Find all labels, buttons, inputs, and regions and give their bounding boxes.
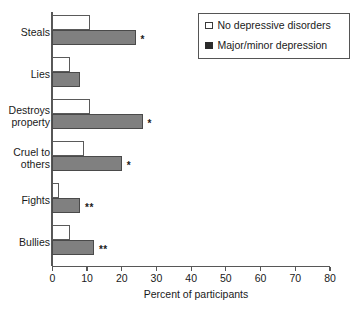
x-tick-label: 30 (141, 272, 171, 284)
legend: No depressive disorders Major/minor depr… (198, 13, 350, 59)
bar-no-depressive-disorders (52, 141, 83, 156)
x-tick-label: 0 (37, 272, 67, 284)
x-tick (191, 267, 192, 271)
category-label: Cruel to others (0, 147, 50, 170)
x-tick-label: 20 (107, 272, 137, 284)
category-label: Fights (0, 195, 50, 207)
legend-swatch-light-icon (205, 22, 213, 30)
bar-major-minor-depression (52, 240, 94, 255)
x-axis-title: Percent of participants (0, 288, 362, 300)
x-tick-label: 70 (280, 272, 310, 284)
legend-label-major-minor-depression: Major/minor depression (218, 39, 328, 52)
x-tick (121, 267, 122, 271)
x-tick (52, 267, 53, 271)
x-tick (86, 267, 87, 271)
category-label: Destroys property (0, 105, 50, 128)
legend-label-no-depressive-disorders: No depressive disorders (218, 19, 331, 32)
category-label: Steals (0, 27, 50, 39)
significance-marker: * (127, 161, 131, 171)
legend-swatch-dark-icon (205, 42, 213, 50)
significance-marker: * (148, 119, 152, 129)
x-tick-label: 40 (176, 272, 206, 284)
x-tick (225, 267, 226, 271)
x-tick-label: 10 (72, 272, 102, 284)
bar-no-depressive-disorders (52, 57, 69, 72)
significance-marker: ** (99, 245, 108, 255)
bar-major-minor-depression (52, 30, 135, 45)
x-tick-label: 50 (211, 272, 241, 284)
x-axis-title-text: Percent of participants (144, 288, 248, 300)
category-label: Bullies (0, 237, 50, 249)
bar-major-minor-depression (52, 72, 80, 87)
bar-chart: 01020304050607080 Steals*LiesDestroys pr… (0, 0, 362, 310)
significance-marker: * (141, 35, 145, 45)
x-tick (156, 267, 157, 271)
bar-no-depressive-disorders (52, 99, 90, 114)
x-tick (260, 267, 261, 271)
bar-major-minor-depression (52, 156, 121, 171)
bar-no-depressive-disorders (52, 15, 90, 30)
bar-no-depressive-disorders (52, 183, 59, 198)
significance-marker: ** (85, 203, 94, 213)
x-tick-label: 60 (246, 272, 276, 284)
x-tick (329, 267, 330, 271)
legend-item-no-depressive-disorders: No depressive disorders (205, 19, 343, 32)
x-tick-label: 80 (315, 272, 345, 284)
x-tick (295, 267, 296, 271)
category-label: Lies (0, 69, 50, 81)
legend-item-major-minor-depression: Major/minor depression (205, 39, 343, 52)
bar-major-minor-depression (52, 198, 80, 213)
bar-major-minor-depression (52, 114, 142, 129)
bar-no-depressive-disorders (52, 225, 69, 240)
